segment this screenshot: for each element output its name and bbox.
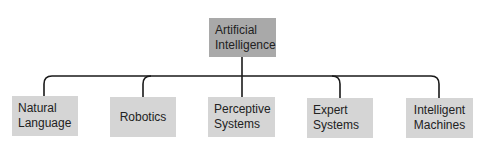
node-label: Intelligent Machines <box>414 103 465 133</box>
node-natural-language: Natural Language <box>12 96 78 136</box>
node-label: Perceptive Systems <box>214 102 271 132</box>
node-expert-systems: Expert Systems <box>307 98 373 138</box>
branch-expert-line <box>332 76 340 98</box>
node-artificial-intelligence: Artificial Intelligence <box>209 18 276 57</box>
node-label: Expert Systems <box>313 103 359 133</box>
node-intelligent-machines: Intelligent Machines <box>406 98 473 138</box>
node-label: Robotics <box>120 110 167 125</box>
node-perceptive-systems: Perceptive Systems <box>208 97 275 137</box>
node-label: Artificial Intelligence <box>215 23 276 53</box>
branch-robotics-line <box>143 76 151 97</box>
node-robotics: Robotics <box>110 97 176 137</box>
node-label: Natural Language <box>18 101 71 131</box>
ai-hierarchy-diagram: Artificial Intelligence Natural Language… <box>0 0 490 143</box>
